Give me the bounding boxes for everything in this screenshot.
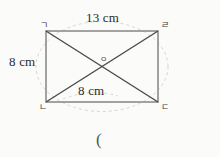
left-side-length-label: 8 cm — [9, 55, 35, 68]
vertex-label-top-left: ㄱ — [40, 21, 48, 30]
vertex-label-bottom-right: ㄷ — [161, 103, 169, 112]
top-side-length-label: 13 cm — [86, 11, 119, 24]
answer-parenthesis: ( — [96, 131, 102, 148]
diagonal-length-label: 8 cm — [78, 84, 104, 97]
vertex-label-bottom-left: ㄴ — [39, 103, 47, 112]
vertex-label-top-right: ㄹ — [161, 21, 169, 30]
figure-stage: 13 cm 8 cm 8 cm ㄱ ㄹ ㄴ ㄷ ㅇ ( — [0, 0, 220, 157]
center-point-label: ㅇ — [100, 56, 107, 64]
